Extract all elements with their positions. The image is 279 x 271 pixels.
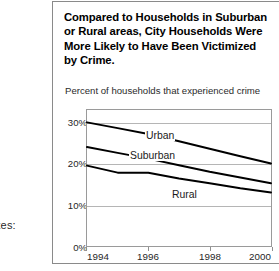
x-tick-mark (210, 247, 211, 251)
x-tick-label: 1998 (199, 251, 221, 262)
series-label-rural: Rural (171, 189, 198, 200)
figure-title: Compared to Households in Suburban or Ru… (64, 10, 272, 68)
y-axis-tick-labels: 0%10%20%30% (43, 109, 87, 247)
x-tick-label: 1996 (137, 251, 159, 262)
series-label-suburban: Suburban (129, 150, 176, 161)
y-tick-label: 30% (47, 116, 87, 127)
x-tick-mark (86, 247, 87, 251)
x-tick-mark (272, 247, 273, 251)
x-tick-label: 1994 (87, 251, 109, 262)
y-axis-caption: Percent of households that experienced c… (65, 85, 265, 97)
y-tick-label: 0% (47, 242, 87, 253)
x-tick-label: 2000 (249, 251, 271, 262)
x-axis-tick-labels: 1994199619982000 (86, 251, 272, 265)
x-tick-mark (148, 247, 149, 251)
series-line-urban (87, 122, 271, 163)
y-tick-label: 10% (47, 200, 87, 211)
plot-area (86, 109, 272, 247)
line-chart-svg (87, 110, 271, 246)
figure-panel: Compared to Households in Suburban or Ru… (52, 1, 279, 264)
cut-off-caption: ates: (0, 219, 16, 231)
y-tick-label: 20% (47, 158, 87, 169)
series-label-urban: Urban (145, 130, 175, 141)
